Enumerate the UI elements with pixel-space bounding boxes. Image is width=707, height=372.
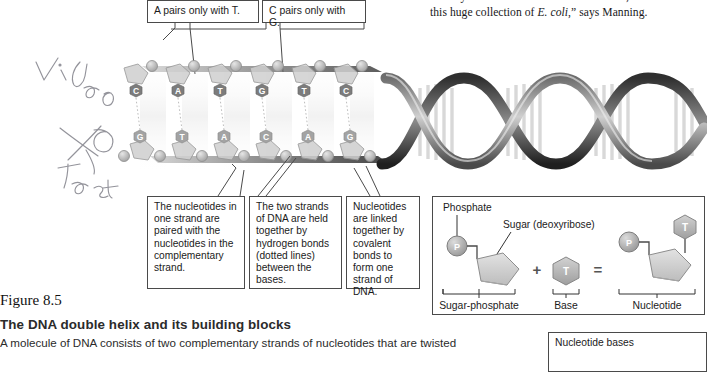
column-text-line-2-post: ,” says Manning. <box>568 6 647 19</box>
nucleotide-phosphate-symbol: P <box>626 238 632 248</box>
bracket-label-nucleotide: Nucleotide <box>632 300 681 311</box>
callout-hydrogen-bonds: The two strands of DNA are held together… <box>249 196 342 289</box>
plus-operator: + <box>533 261 542 278</box>
base-bottom-6: G <box>347 132 354 142</box>
callout-a-pairs: A pairs only with T. <box>147 0 259 23</box>
equals-operator: = <box>594 261 603 278</box>
callout-covalent-bonds: Nucleotides are linked together by coval… <box>346 196 420 289</box>
base-top-1: C <box>133 86 139 96</box>
sugar-label: Sugar (deoxyribose) <box>503 219 595 230</box>
base-bottom-4: C <box>263 132 269 142</box>
sugar-pentagon <box>477 253 519 285</box>
bottom-callout-leader-lines <box>140 150 430 198</box>
callout-hydrogen-bonds-text: The two strands of DNA are held together… <box>256 201 329 285</box>
brackets <box>443 289 695 298</box>
base-bottom-1: G <box>137 132 144 142</box>
handwritten-annotation <box>8 18 132 198</box>
bracket-label-base: Base <box>554 300 578 311</box>
figure-number: Figure 8.5 <box>0 292 62 309</box>
callout-complementary-pairing: The nucleotides in one strand are paired… <box>147 196 245 289</box>
column-text-line-2: this huge collection of E. coli,” says M… <box>430 5 707 21</box>
base-symbol: T <box>563 266 569 277</box>
base-bottom-3: A <box>221 132 227 142</box>
building-blocks-panel: Phosphate Sugar (deoxyribose) P + T = P … <box>432 196 705 315</box>
base-bottom-2: T <box>179 132 185 142</box>
base-top-4: G <box>259 86 266 96</box>
building-blocks-diagram: Phosphate Sugar (deoxyribose) P + T = P … <box>433 197 704 314</box>
column-text-line-2-pre: this huge collection of <box>430 6 537 19</box>
callout-c-pairs: C pairs only with G. <box>262 0 366 23</box>
callout-complementary-pairing-text: The nucleotides in one strand are paired… <box>154 201 237 273</box>
figure-title: The DNA double helix and its building bl… <box>0 317 291 332</box>
callout-a-pairs-text: A pairs only with T. <box>154 5 240 16</box>
bracket-label-sugar-phosphate: Sugar-phosphate <box>439 300 519 311</box>
base-top-3: T <box>217 86 223 96</box>
phosphate-symbol: P <box>454 242 460 252</box>
column-body-text: steadily filled the lab. “Before we knew… <box>430 0 707 20</box>
nucleotide-sugar-pentagon <box>649 249 691 281</box>
figure-body-text: A molecule of DNA consists of two comple… <box>0 335 560 350</box>
nucleotide-bases-box: Nucleotide bases <box>548 332 707 372</box>
base-top-2: A <box>175 86 181 96</box>
base-top-6: C <box>343 86 349 96</box>
base-top-5: T <box>301 86 307 96</box>
nucleotide-base-symbol: T <box>682 222 688 233</box>
callout-covalent-bonds-text: Nucleotides are linked together by coval… <box>353 201 406 297</box>
column-text-species: E. coli <box>537 6 568 19</box>
nucleotide-bases-title: Nucleotide bases <box>555 337 634 348</box>
dna-helix-3d <box>382 75 704 164</box>
phosphate-label: Phosphate <box>443 202 492 213</box>
base-bottom-5: A <box>305 132 311 142</box>
